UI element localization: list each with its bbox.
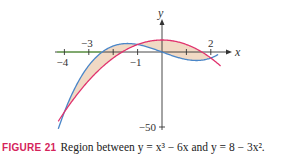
figure-label: FIGURE 21 <box>2 142 56 153</box>
x-tick-label: −4 <box>57 56 69 68</box>
x-tick-label: −1 <box>130 56 142 68</box>
x-axis-label: x <box>234 45 241 59</box>
chart-plot: x y −50 −4−3−12 <box>0 0 287 140</box>
y-tick-label: −50 <box>139 121 157 133</box>
caption-text: Region between y = x³ − 6x and y = 8 − 3… <box>60 141 264 153</box>
x-axis-arrow-icon <box>226 50 232 55</box>
figure-caption: FIGURE 21Region between y = x³ − 6x and … <box>2 141 287 153</box>
x-tick-label: 2 <box>208 37 214 49</box>
x-tick-label: −3 <box>81 37 93 49</box>
y-axis-label: y <box>157 6 164 20</box>
